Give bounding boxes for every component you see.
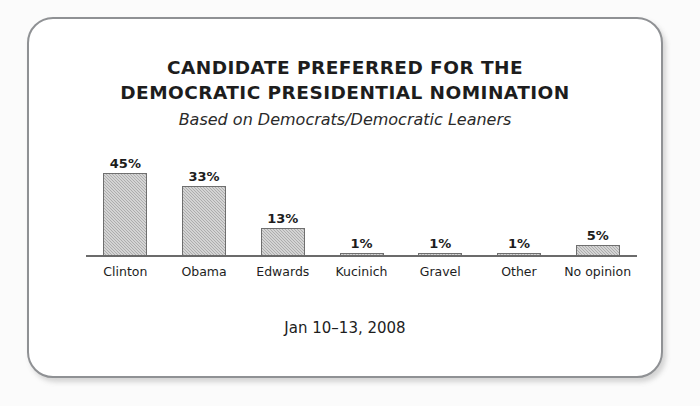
bar-slot: 45% — [86, 157, 165, 256]
x-axis-tick-label: No opinion — [558, 264, 637, 280]
x-axis-tick-label: Other — [480, 264, 559, 280]
bar-value-label: 1% — [350, 237, 372, 251]
chart-footnote-date: Jan 10–13, 2008 — [29, 319, 661, 337]
bar-slot: 13% — [243, 157, 322, 256]
bar-value-label: 1% — [508, 237, 530, 251]
bar-rect — [261, 228, 305, 256]
bar-slot: 5% — [558, 157, 637, 256]
chart-plot-area: 45% 33% 13% 1% 1% 1% — [86, 157, 637, 274]
x-axis-tick-label: Edwards — [243, 264, 322, 280]
chart-subtitle: Based on Democrats/Democratic Leaners — [29, 108, 661, 132]
x-axis-tick-label: Clinton — [86, 264, 165, 280]
chart-title-block: CANDIDATE PREFERRED FOR THE DEMOCRATIC P… — [29, 55, 661, 132]
x-axis-tick-label: Obama — [165, 264, 244, 280]
bar-slot: 1% — [401, 157, 480, 256]
bar-value-label: 1% — [429, 237, 451, 251]
x-axis-tick-label: Kucinich — [322, 264, 401, 280]
chart-title-line-2: DEMOCRATIC PRESIDENTIAL NOMINATION — [29, 80, 661, 105]
x-axis-line — [86, 255, 637, 257]
bar-value-label: 45% — [110, 157, 141, 171]
chart-title-line-1: CANDIDATE PREFERRED FOR THE — [29, 55, 661, 80]
bar-slot: 1% — [322, 157, 401, 256]
bar-series: 45% 33% 13% 1% 1% 1% — [86, 157, 637, 256]
x-axis-tick-label: Gravel — [401, 264, 480, 280]
x-axis-labels: Clinton Obama Edwards Kucinich Gravel Ot… — [86, 264, 637, 280]
bar-value-label: 5% — [587, 229, 609, 243]
poll-chart-card: CANDIDATE PREFERRED FOR THE DEMOCRATIC P… — [27, 17, 663, 378]
bar-slot: 33% — [165, 157, 244, 256]
bar-value-label: 13% — [267, 212, 298, 226]
bar-rect — [182, 186, 226, 256]
bar-rect — [103, 173, 147, 256]
bar-value-label: 33% — [189, 170, 220, 184]
bar-slot: 1% — [480, 157, 559, 256]
